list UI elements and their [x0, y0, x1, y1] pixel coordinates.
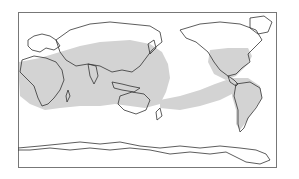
greenland-outline: [250, 16, 272, 34]
shaded-region: [19, 40, 262, 130]
new-zealand-outline: [156, 108, 162, 120]
europe-outline: [28, 34, 60, 52]
antarctica-outline: [18, 142, 270, 164]
world-map: [0, 0, 299, 179]
